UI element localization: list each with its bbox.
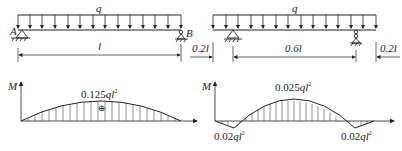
- beam-diagrams: q A B l M: [0, 0, 402, 151]
- roller-support-icon: [350, 30, 362, 46]
- span-label-l: l: [98, 40, 101, 52]
- simply-supported-beam: q A B l: [9, 2, 193, 62]
- dim-main-span: 0.6l: [285, 42, 302, 54]
- moment-diagram-overhang: M 0.025ql2 0.02ql2 0.02ql2: [201, 80, 394, 142]
- moment-diagram-simple: M 0.125ql2 ⊕: [7, 80, 197, 121]
- moment-axis-label: M: [201, 80, 212, 92]
- mid-span-moment-label: 0.025ql2: [275, 81, 311, 93]
- left-support-moment-label: 0.02ql2: [214, 130, 245, 142]
- moment-axis-label: M: [7, 80, 18, 92]
- support-label-a: A: [9, 25, 17, 37]
- moment-curve: [215, 99, 374, 128]
- load-label-q: q: [96, 2, 102, 14]
- max-moment-label: 0.125ql2: [81, 88, 117, 100]
- overhanging-beam: q 0.2l 0.6l 0.2l: [190, 2, 400, 62]
- load-label-q: q: [292, 2, 298, 14]
- support-label-b: B: [186, 27, 193, 39]
- positive-sign-icon: ⊕: [98, 103, 106, 113]
- dim-left-overhang: 0.2l: [192, 42, 209, 54]
- pin-support-icon: [224, 30, 242, 42]
- dim-right-overhang: 0.2l: [380, 42, 397, 54]
- right-support-moment-label: 0.02ql2: [341, 130, 372, 142]
